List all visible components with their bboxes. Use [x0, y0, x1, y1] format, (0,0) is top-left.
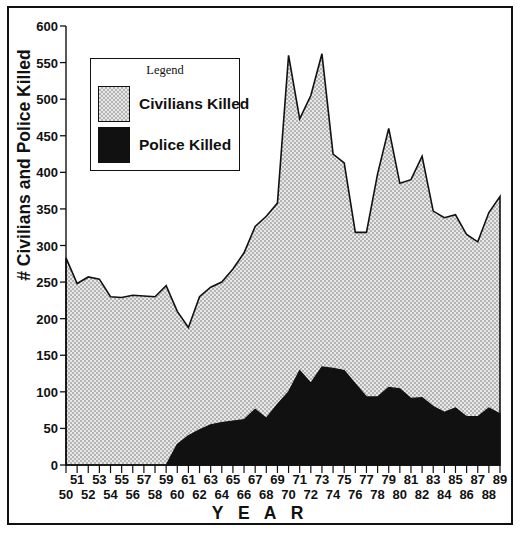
y-tick-label: 200 [14, 311, 58, 326]
x-tick-label: 73 [315, 472, 329, 487]
y-tick-label: 100 [14, 384, 58, 399]
x-tick-label: 89 [493, 472, 507, 487]
plot-area [0, 0, 520, 536]
y-tick-label: 0 [14, 458, 58, 473]
x-tick-label: 77 [359, 472, 373, 487]
x-tick-label: 52 [81, 487, 95, 502]
x-tick-label: 75 [337, 472, 351, 487]
x-tick-label: 64 [215, 487, 229, 502]
x-tick-label: 55 [114, 472, 128, 487]
x-tick-label: 83 [426, 472, 440, 487]
x-tick-label: 54 [103, 487, 117, 502]
y-tick-label: 550 [14, 55, 58, 70]
x-tick-label: 65 [226, 472, 240, 487]
legend-label-police-killed: Police Killed [139, 136, 231, 154]
y-tick-label: 500 [14, 92, 58, 107]
x-tick-label: 62 [192, 487, 206, 502]
x-tick-label: 68 [259, 487, 273, 502]
x-tick-label: 88 [482, 487, 496, 502]
chart-figure: # Civilians and Police Killed Y E A R 05… [0, 0, 520, 536]
legend-label-civilians-killed: Civilians Killed [139, 95, 249, 113]
x-tick-label: 66 [237, 487, 251, 502]
y-tick-label: 300 [14, 238, 58, 253]
x-tick-label: 74 [326, 487, 340, 502]
y-tick-label: 450 [14, 128, 58, 143]
x-tick-label: 56 [126, 487, 140, 502]
x-tick-label: 63 [203, 472, 217, 487]
x-tick-label: 85 [448, 472, 462, 487]
x-tick-label: 67 [248, 472, 262, 487]
legend-item-civilians-killed: Civilians Killed [98, 86, 249, 122]
y-tick-label: 250 [14, 275, 58, 290]
x-tick-label: 80 [393, 487, 407, 502]
y-tick-marks [60, 26, 66, 465]
legend: Legend Civilians Killed Police Killed [90, 58, 240, 171]
x-tick-label: 72 [304, 487, 318, 502]
x-tick-label: 61 [181, 472, 195, 487]
x-tick-label: 69 [270, 472, 284, 487]
x-tick-label: 81 [404, 472, 418, 487]
x-tick-label: 50 [59, 487, 73, 502]
y-tick-label: 50 [14, 421, 58, 436]
x-axis-title: Y E A R [0, 503, 520, 524]
x-tick-label: 86 [459, 487, 473, 502]
x-tick-label: 59 [159, 472, 173, 487]
x-tick-label: 78 [370, 487, 384, 502]
x-tick-label: 79 [381, 472, 395, 487]
x-tick-label: 57 [137, 472, 151, 487]
x-tick-label: 51 [70, 472, 84, 487]
x-tick-label: 84 [437, 487, 451, 502]
legend-swatch-police-killed [98, 127, 130, 163]
legend-item-police-killed: Police Killed [98, 127, 231, 163]
x-tick-label: 82 [415, 487, 429, 502]
y-tick-label: 150 [14, 348, 58, 363]
x-tick-label: 70 [281, 487, 295, 502]
x-tick-label: 76 [348, 487, 362, 502]
y-tick-label: 600 [14, 19, 58, 34]
x-tick-label: 87 [471, 472, 485, 487]
x-tick-label: 60 [170, 487, 184, 502]
y-tick-label: 400 [14, 165, 58, 180]
legend-swatch-civilians-killed [98, 86, 130, 122]
x-tick-label: 58 [148, 487, 162, 502]
y-tick-label: 350 [14, 201, 58, 216]
x-tick-label: 53 [92, 472, 106, 487]
x-tick-label: 71 [292, 472, 306, 487]
legend-title: Legend [91, 63, 239, 78]
